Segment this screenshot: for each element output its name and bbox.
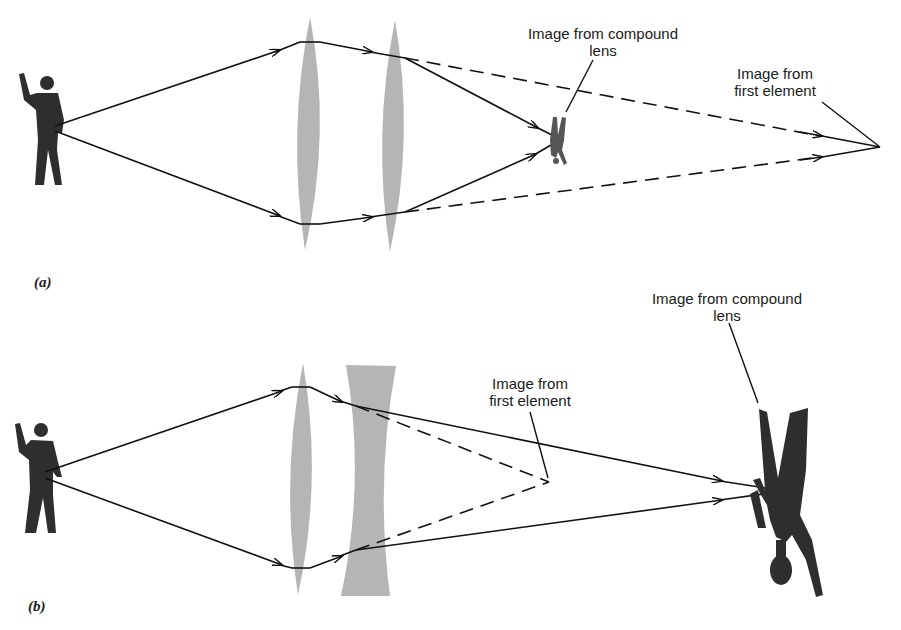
leader-line-compound-a — [566, 60, 593, 112]
panel-a — [19, 17, 880, 252]
object-person-icon — [19, 73, 64, 185]
label-first-element-a: Image from first element — [715, 65, 835, 99]
object-person-icon — [15, 423, 62, 533]
compound-image-small-icon — [550, 117, 567, 165]
panel-b — [15, 323, 823, 597]
label-compound-image-a: Image from compound lens — [508, 25, 698, 59]
label-compound-image-b: Image from compound lens — [632, 290, 822, 324]
label-first-element-b: Image from first element — [470, 375, 590, 409]
panel-label-b: (b) — [28, 598, 46, 615]
compound-image-large-icon — [750, 408, 823, 597]
convex-lens-1 — [297, 17, 320, 250]
concave-lens — [341, 365, 396, 596]
convex-lens — [290, 363, 312, 595]
rays-b — [45, 387, 785, 568]
leader-line-first-a — [822, 102, 880, 147]
leader-line-compound-b — [729, 323, 758, 403]
panel-label-a: (a) — [34, 274, 52, 291]
